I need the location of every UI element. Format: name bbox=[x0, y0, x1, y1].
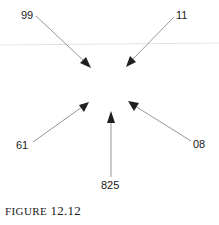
figure-caption: FIGURE 12.12 bbox=[5, 203, 81, 219]
node-label-11: 11 bbox=[176, 10, 187, 21]
arrowhead-icon bbox=[107, 111, 115, 123]
arrow-from-08 bbox=[128, 101, 191, 141]
node-label-825: 825 bbox=[101, 180, 119, 191]
arrowhead-icon bbox=[128, 101, 139, 111]
arrow-from-61 bbox=[33, 102, 89, 142]
arrow-from-99 bbox=[36, 16, 91, 68]
faint-horizontal-rule bbox=[0, 43, 219, 45]
caption-number: 12.12 bbox=[51, 203, 81, 218]
converging-arrows-diagram bbox=[0, 0, 219, 200]
node-label-61: 61 bbox=[16, 140, 28, 151]
caption-prefix: FIGURE bbox=[5, 205, 47, 217]
figure-12-12: 99 11 61 08 825 FIGURE 12.12 bbox=[0, 0, 219, 225]
node-label-08: 08 bbox=[193, 139, 205, 150]
arrow-from-825 bbox=[107, 111, 115, 177]
arrowhead-icon bbox=[79, 102, 89, 112]
node-label-99: 99 bbox=[21, 10, 33, 21]
arrow-from-11 bbox=[126, 17, 174, 67]
